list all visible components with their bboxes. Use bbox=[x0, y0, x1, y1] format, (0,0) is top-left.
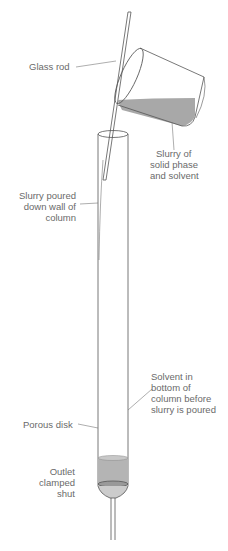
solvent-layer bbox=[98, 456, 128, 485]
porous-disk bbox=[98, 481, 128, 498]
label-slurry-poured: Slurry poured down wall of column bbox=[14, 190, 76, 223]
label-slurry: Slurry of solid phase and solvent bbox=[150, 148, 199, 181]
label-outlet: Outlet clamped shut bbox=[30, 466, 75, 499]
outlet-stem bbox=[111, 498, 115, 540]
column bbox=[98, 131, 128, 487]
label-solvent: Solvent in bottom of column before slurr… bbox=[151, 371, 216, 415]
label-glass-rod: Glass rod bbox=[29, 61, 70, 72]
label-porous-disk: Porous disk bbox=[23, 419, 73, 430]
